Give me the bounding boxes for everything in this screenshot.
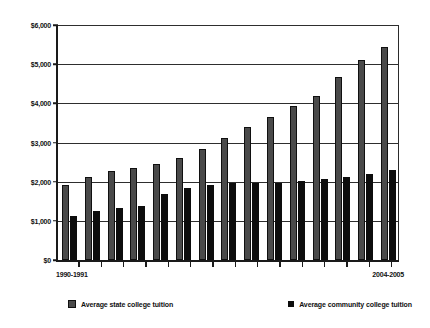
x-axis-tick [279,262,281,267]
bar-state-college [176,158,183,260]
y-axis-label: $3,000 [31,139,58,146]
y-axis-label: $2,000 [31,178,58,185]
bars-container [58,25,399,260]
bar-state-college [199,149,206,260]
x-axis-tick [346,262,348,267]
bar-community-college [184,188,191,260]
bar-state-college [244,127,251,260]
bar-community-college [116,208,123,260]
x-axis-tick [302,262,304,267]
x-axis-tick [369,262,371,267]
y-axis-label: $4,000 [31,100,58,107]
bar-group [335,25,350,260]
bar-state-college [267,117,274,260]
x-axis-tick [235,262,237,267]
bar-group [62,25,77,260]
x-axis-tick [190,262,192,267]
plot-area: $0$1,000$2,000$3,000$4,000$5,000$6,000 [56,25,399,262]
bar-state-college [381,47,388,260]
bar-group [290,25,305,260]
square-swatch-icon [68,300,76,308]
bar-community-college [93,211,100,260]
bar-community-college [343,177,350,260]
y-axis-label: $1,000 [31,217,58,224]
bar-state-college [85,177,92,260]
bar-state-college [335,77,342,260]
bar-community-college [161,194,168,260]
x-axis-tick [212,262,214,267]
x-axis-tick [324,262,326,267]
bar-state-college [358,60,365,260]
x-axis-ticks [56,262,399,268]
bar-state-college [108,171,115,260]
bar-state-college [62,185,69,260]
bar-group [358,25,373,260]
tuition-bar-chart: $0$1,000$2,000$3,000$4,000$5,000$6,000 1… [0,0,430,328]
bar-community-college [321,179,328,260]
x-axis-label-last: 2004-2005 [372,271,404,278]
bar-group [313,25,328,260]
bar-state-college [153,164,160,260]
bar-community-college [366,174,373,260]
bar-community-college [298,181,305,260]
bar-group [267,25,282,260]
legend-label: Average community college tuition [299,301,412,308]
bar-community-college [138,206,145,261]
bar-group [221,25,236,260]
legend-item-state-college: Average state college tuition [68,300,173,308]
x-axis-label-first: 1990-1991 [56,271,88,278]
bar-group [199,25,214,260]
x-axis-tick [78,262,80,267]
bar-group [381,25,396,260]
bar-state-college [290,106,297,260]
y-axis-label: $5,000 [31,61,58,68]
bar-community-college [207,185,214,260]
legend-item-community-college: Average community college tuition [288,301,412,308]
bar-community-college [389,170,396,260]
bar-community-college [252,183,259,260]
y-axis-label: $6,000 [31,22,58,29]
bar-community-college [229,183,236,260]
legend-label: Average state college tuition [81,301,173,308]
bar-group [244,25,259,260]
x-axis-tick [168,262,170,267]
bar-group [85,25,100,260]
bar-group [176,25,191,260]
bar-state-college [221,138,228,260]
square-swatch-icon [288,301,294,307]
chart-legend: Average state college tuition Average co… [56,296,399,312]
bar-community-college [275,183,282,260]
x-axis-tick [391,262,393,267]
x-axis-tick [145,262,147,267]
bar-group [130,25,145,260]
bar-group [108,25,123,260]
x-axis-tick [257,262,259,267]
bar-community-college [70,216,77,260]
bar-group [153,25,168,260]
x-axis-tick [123,262,125,267]
bar-state-college [313,96,320,260]
bar-state-college [130,168,137,260]
x-axis-tick [101,262,103,267]
